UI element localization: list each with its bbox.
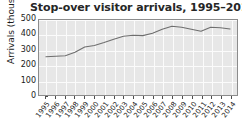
- chart-figure: Stop-over visitor arrivals, 1995–2014 Ar…: [0, 0, 242, 123]
- x-tick-mark: [84, 96, 85, 99]
- x-tick-mark: [45, 96, 46, 99]
- x-tick-mark: [182, 96, 183, 99]
- x-tick-mark: [153, 96, 154, 99]
- x-tick-mark: [133, 96, 134, 99]
- x-tick-mark: [123, 96, 124, 99]
- x-tick-mark: [162, 96, 163, 99]
- x-tick-mark: [104, 96, 105, 99]
- x-tick-mark: [55, 96, 56, 99]
- x-tick-mark: [221, 96, 222, 99]
- x-tick-mark: [211, 96, 212, 99]
- x-tick-mark: [192, 96, 193, 99]
- x-tick-mark: [74, 96, 75, 99]
- x-axis-tick-labels: 1995199619971998199920002001200220032004…: [0, 0, 242, 123]
- x-tick-mark: [65, 96, 66, 99]
- x-tick-mark: [143, 96, 144, 99]
- x-tick-mark: [202, 96, 203, 99]
- x-tick-mark: [172, 96, 173, 99]
- x-tick-mark: [94, 96, 95, 99]
- x-tick-mark: [231, 96, 232, 99]
- x-tick-mark: [114, 96, 115, 99]
